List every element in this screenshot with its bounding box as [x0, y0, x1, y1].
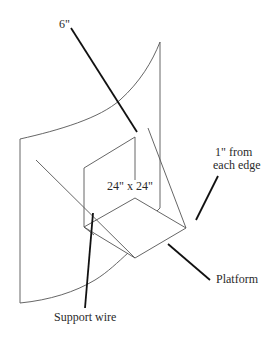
support-struts [36, 128, 186, 258]
leader-lines [71, 28, 218, 308]
support-wire-label: Support wire [54, 311, 116, 324]
edge-offset-label-line2: each edge [213, 159, 261, 172]
curved-panel [20, 42, 160, 303]
platform-label: Platform [216, 273, 258, 286]
platform-surface [84, 198, 186, 258]
size-label: 24" x 24" [107, 180, 153, 193]
depth-label: 6" [59, 18, 70, 31]
